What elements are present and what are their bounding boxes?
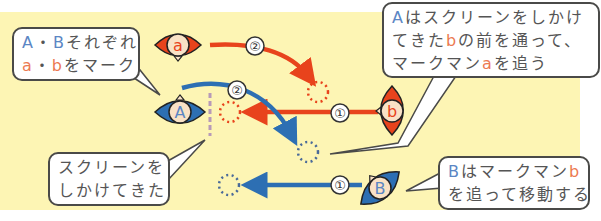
svg-text:a: a [173, 36, 183, 55]
svg-text:①: ① [334, 106, 346, 121]
label-b: b [569, 162, 581, 181]
callout-line: A・Bそれぞれ [22, 31, 130, 54]
callout-line: を追って移動する [448, 183, 580, 206]
callout-A-action: Aはスクリーンをしかけ てきたbの前を通って、 マークマンaを追う [382, 2, 600, 78]
svg-text:b: b [387, 102, 397, 121]
screen-play-diagram: ② ① ② ① a b [0, 0, 601, 221]
label-A: A [392, 8, 405, 27]
callout-text: の前を通って、 [458, 31, 582, 50]
separator: ・ [35, 33, 53, 52]
callout-tail-bottom-right [406, 172, 442, 191]
label-A: A [22, 33, 35, 52]
svg-text:②: ② [249, 39, 261, 54]
label-b: b [446, 31, 458, 50]
step-badge-B-1: ① [331, 176, 349, 194]
label-B: B [448, 162, 461, 181]
callout-line: スクリーンを [58, 156, 160, 179]
callout-text: を追う [494, 54, 548, 73]
callout-line: a・bをマーク [22, 54, 130, 77]
target-circle-B [219, 175, 239, 195]
callout-screen-set: スクリーンを しかけてきた [48, 152, 170, 206]
step-badge-a-2: ② [246, 37, 264, 55]
player-A-icon: A [155, 95, 205, 123]
target-circle-a [308, 82, 328, 102]
player-b-icon: b [376, 86, 403, 135]
callout-line: マークマンaを追う [392, 52, 590, 75]
callout-mark-assignment: A・Bそれぞれ a・bをマーク [12, 27, 140, 81]
player-a-icon: a [155, 34, 201, 61]
callout-text: はスクリーンをしかけ [405, 8, 584, 27]
step-badge-b-1: ① [331, 104, 349, 122]
label-a: a [22, 56, 34, 75]
callout-line: Aはスクリーンをしかけ [392, 6, 590, 29]
callout-B-action: Bはマークマンb を追って移動する [438, 156, 590, 210]
label-B: B [53, 33, 66, 52]
callout-line: Bはマークマンb [448, 160, 580, 183]
label-a: a [482, 54, 494, 73]
callout-text: それぞれ [66, 33, 138, 52]
svg-text:②: ② [231, 83, 243, 98]
target-circle-A [298, 142, 318, 162]
callout-text: はマークマン [461, 162, 569, 181]
callout-text: をマーク [64, 56, 136, 75]
callout-line: てきたbの前を通って、 [392, 29, 590, 52]
svg-text:A: A [175, 103, 186, 122]
target-circle-b [220, 102, 240, 122]
step-badge-A-2: ② [228, 81, 246, 99]
callout-text: マークマン [392, 54, 482, 73]
separator: ・ [34, 56, 52, 75]
callout-line: しかけてきた [58, 179, 160, 202]
callout-tail-bottom-left [166, 140, 205, 180]
callout-text: てきた [392, 31, 446, 50]
svg-text:①: ① [334, 178, 346, 193]
label-b: b [52, 56, 64, 75]
player-B-label: B [375, 179, 386, 198]
